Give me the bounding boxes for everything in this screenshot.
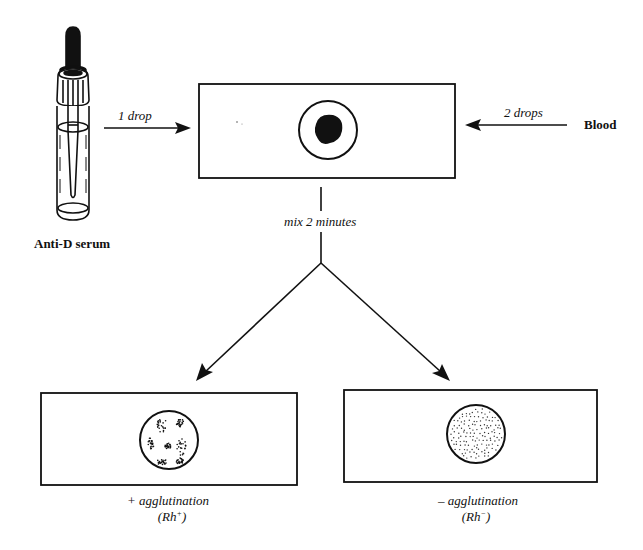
reagent-amount-label: 1 drop <box>118 109 152 123</box>
sample-amount-label: 2 drops <box>504 106 543 120</box>
negative-result-label: – agglutination <box>438 494 518 508</box>
sample-label: Blood <box>584 118 617 132</box>
uniform-well <box>447 405 505 463</box>
sample-arrow <box>465 119 567 131</box>
reagent-arrow <box>104 122 191 134</box>
positive-result-label: + agglutination <box>127 494 209 508</box>
mixing-slide <box>199 84 455 178</box>
negative-rh-label: (Rh−) <box>462 510 491 524</box>
arrow-to-positive <box>196 363 213 381</box>
negative-result-slide <box>344 390 597 482</box>
dropper-bottle-icon <box>57 27 89 220</box>
positive-rh-label: (Rh+) <box>158 510 187 524</box>
mix-instruction-label: mix 2 minutes <box>284 215 356 229</box>
agglutination-well <box>140 411 198 469</box>
reagent-label: Anti-D serum <box>34 237 110 251</box>
diagram-canvas <box>0 0 643 550</box>
positive-result-slide <box>41 393 297 485</box>
